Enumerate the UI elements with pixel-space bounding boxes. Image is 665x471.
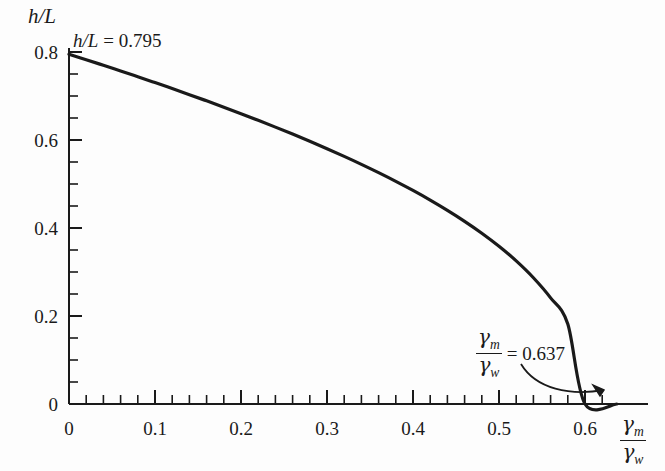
x-tick-label-0.5: 0.5 (469, 419, 529, 438)
peak-annotation-value: = 0.795 (98, 30, 161, 51)
x-axis-title: γm γw (620, 414, 646, 468)
x-tick-label-0.4: 0.4 (383, 419, 443, 438)
endpoint-annotation-value: = 0.637 (502, 344, 565, 363)
x-minor-ticks (86, 395, 602, 404)
endpoint-annotation-denominator: γw (476, 354, 502, 380)
peak-annotation-variable: h/L (73, 30, 98, 51)
y-tick-label-0.2: 0.2 (6, 307, 58, 326)
x-tick-label-0.6: 0.6 (555, 419, 615, 438)
y-tick-label-0: 0 (6, 395, 58, 414)
plot-canvas (0, 0, 665, 471)
y-major-ticks (69, 52, 82, 404)
endpoint-annotation-numerator: γm (476, 327, 502, 354)
x-major-ticks (69, 390, 585, 404)
y-axis-title: h/L (28, 6, 56, 27)
y-tick-label-0.6: 0.6 (6, 131, 58, 150)
chart-figure: h/L 0.8 0.6 0.4 0.2 0 0 0.1 0.2 0.3 0.4 … (0, 0, 665, 471)
x-axis-title-numerator: γm (620, 414, 646, 441)
x-tick-label-0.3: 0.3 (297, 419, 357, 438)
endpoint-value-annotation: γm γw = 0.637 (476, 327, 565, 381)
x-tick-label-0.2: 0.2 (211, 419, 271, 438)
y-tick-label-0.4: 0.4 (6, 219, 58, 238)
peak-value-annotation: h/L= 0.795 (73, 31, 162, 50)
x-tick-label-0.1: 0.1 (125, 419, 185, 438)
x-tick-label-0: 0 (39, 419, 99, 438)
x-axis-title-denominator: γw (620, 441, 646, 467)
y-tick-label-0.8: 0.8 (6, 43, 58, 62)
